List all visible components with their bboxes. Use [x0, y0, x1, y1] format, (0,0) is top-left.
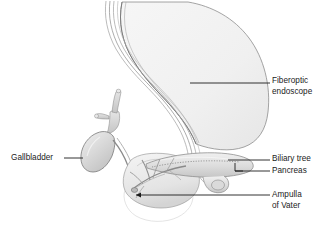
- ampulla-of-vater: [131, 188, 137, 193]
- label-ampulla-of-vater: Ampulla of Vater: [272, 190, 302, 211]
- label-gallbladder: Gallbladder: [11, 153, 53, 164]
- gallbladder: [81, 132, 115, 172]
- label-pancreas: Pancreas: [272, 166, 307, 177]
- stomach: [120, 2, 268, 150]
- label-biliary-tree: Biliary tree: [272, 154, 311, 165]
- label-fiberoptic-endoscope: Fiberoptic endoscope: [272, 76, 312, 97]
